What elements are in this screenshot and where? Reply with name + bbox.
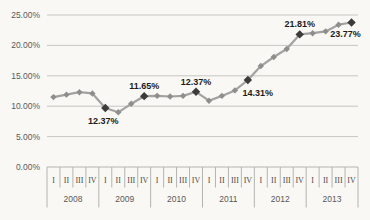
data-point-label: 12.37% <box>88 116 119 126</box>
x-axis-quarter-label: II <box>219 176 225 185</box>
y-axis-tick-label: 5.00% <box>16 132 41 142</box>
x-axis-quarter-label: I <box>311 176 314 185</box>
x-axis-quarter-label: III <box>231 176 239 185</box>
labeled-data-point-marker <box>347 18 355 26</box>
data-point-label: 23.77% <box>330 29 361 39</box>
data-point-label: 11.65% <box>129 81 159 91</box>
x-axis-year-label: 2013 <box>323 194 342 204</box>
line-chart: 0.00%5.00%10.00%15.00%20.00%25.00%IIIIII… <box>0 0 370 220</box>
x-axis-quarter-label: IV <box>88 176 97 185</box>
data-point-marker <box>76 89 82 95</box>
y-axis-tick-label: 0.00% <box>16 162 41 172</box>
x-axis-quarter-label: I <box>156 176 159 185</box>
x-axis-quarter-label: IV <box>347 176 356 185</box>
x-axis-quarter-label: III <box>335 176 343 185</box>
x-axis-quarter-label: I <box>208 176 211 185</box>
x-axis-year-label: 2012 <box>271 194 290 204</box>
x-axis-quarter-label: II <box>116 176 122 185</box>
x-axis-quarter-label: IV <box>295 176 304 185</box>
x-axis-quarter-label: I <box>104 176 107 185</box>
x-axis-quarter-label: III <box>127 176 135 185</box>
y-axis-tick-label: 10.00% <box>11 101 40 111</box>
data-point-marker <box>219 93 225 99</box>
data-series-line <box>54 23 352 113</box>
y-axis-tick-label: 25.00% <box>11 10 40 20</box>
x-axis-quarter-label: II <box>64 176 70 185</box>
data-point-marker <box>63 91 69 97</box>
x-axis-year-label: 2008 <box>63 194 82 204</box>
data-point-label: 21.81% <box>284 19 315 29</box>
data-point-marker <box>167 93 173 99</box>
x-axis-year-label: 2011 <box>219 194 238 204</box>
x-axis-year-label: 2010 <box>167 194 186 204</box>
x-axis-quarter-label: I <box>259 176 262 185</box>
x-axis-quarter-label: IV <box>140 176 149 185</box>
data-point-marker <box>50 94 56 100</box>
data-point-marker <box>154 93 160 99</box>
x-axis-quarter-label: II <box>323 176 329 185</box>
x-axis-quarter-label: IV <box>244 176 253 185</box>
x-axis-quarter-label: III <box>283 176 291 185</box>
y-axis-tick-label: 20.00% <box>11 40 40 50</box>
x-axis-quarter-label: II <box>167 176 173 185</box>
x-axis-quarter-label: II <box>271 176 277 185</box>
x-axis-quarter-label: IV <box>192 176 201 185</box>
x-axis-year-label: 2009 <box>115 194 134 204</box>
x-axis-quarter-label: I <box>52 176 55 185</box>
x-axis-quarter-label: III <box>179 176 187 185</box>
data-point-marker <box>180 93 186 99</box>
x-axis-quarter-label: III <box>75 176 83 185</box>
data-point-label: 14.31% <box>243 88 274 98</box>
chart-container: 0.00%5.00%10.00%15.00%20.00%25.00%IIIIII… <box>0 0 370 220</box>
data-point-label: 12.37% <box>181 77 212 87</box>
data-point-marker <box>309 30 315 36</box>
y-axis-tick-label: 15.00% <box>11 71 40 81</box>
